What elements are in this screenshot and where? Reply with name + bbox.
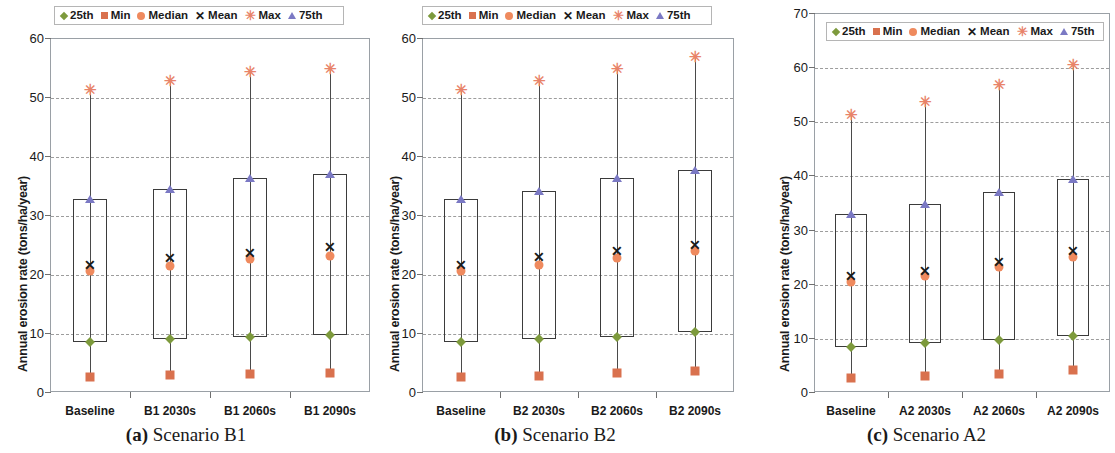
box <box>835 214 868 346</box>
legend-x-icon: ✕ <box>563 10 573 22</box>
gridline <box>423 157 733 158</box>
box <box>313 174 347 336</box>
y-tick-label: 70 <box>772 6 808 21</box>
panel-title: Scenario A2 <box>893 424 986 445</box>
y-tick-mark <box>809 121 815 122</box>
panel-letter: (a) <box>126 424 148 445</box>
y-tick-mark <box>809 338 815 339</box>
x-tick-mark <box>888 392 889 398</box>
y-tick-label: 60 <box>8 31 44 46</box>
x-tick-label: B2 2090s <box>669 404 721 418</box>
box <box>522 191 556 340</box>
legend-circle-icon <box>909 28 917 36</box>
legend-item-p25: 25th <box>833 26 866 38</box>
legend-diamond-icon <box>832 27 840 35</box>
box <box>1057 179 1090 336</box>
panel-b: Annual erosion rate (tons/ha/year)010203… <box>372 0 738 453</box>
y-tick-mark <box>809 392 815 393</box>
y-tick-label: 20 <box>380 267 416 282</box>
legend-label: Median <box>148 10 188 22</box>
box <box>909 204 942 344</box>
legend-square-icon <box>469 12 476 19</box>
legend-label: Median <box>516 10 556 22</box>
y-tick-label: 50 <box>8 90 44 105</box>
legend-asterisk-icon: ✳ <box>1017 25 1028 38</box>
x-tick-label: Baseline <box>436 404 485 418</box>
box <box>678 170 712 333</box>
y-tick-mark <box>45 274 51 275</box>
x-tick-mark <box>290 392 291 398</box>
box <box>600 178 634 336</box>
legend-label: 25th <box>70 10 94 22</box>
x-tick-label: A2 2030s <box>899 404 951 418</box>
box <box>153 189 187 339</box>
panel-letter: (c) <box>867 424 888 445</box>
y-tick-label: 0 <box>380 385 416 400</box>
y-tick-label: 10 <box>772 330 808 345</box>
y-tick-mark <box>417 97 423 98</box>
gridline <box>815 122 1109 123</box>
panel-a: Annual erosion rate (tons/ha/year)010203… <box>0 0 372 453</box>
legend-label: Min <box>111 10 131 22</box>
x-tick-mark <box>962 392 963 398</box>
y-tick-mark <box>809 67 815 68</box>
legend-item-median: Median <box>505 10 556 22</box>
y-tick-mark <box>417 333 423 334</box>
y-tick-mark <box>417 215 423 216</box>
x-tick-label: Baseline <box>65 404 114 418</box>
legend-label: Max <box>259 10 281 22</box>
y-tick-mark <box>45 97 51 98</box>
y-tick-label: 10 <box>380 326 416 341</box>
chart-legend: 25thMinMedian✕Mean✳Max75th <box>422 6 712 25</box>
legend-item-min: Min <box>101 10 131 22</box>
legend-x-icon: ✕ <box>967 26 977 38</box>
legend-item-p25: 25th <box>429 10 462 22</box>
legend-item-mean: ✕Mean <box>967 26 1009 38</box>
legend-item-median: Median <box>137 10 188 22</box>
x-tick-label: A2 2060s <box>973 404 1025 418</box>
panel-title: Scenario B1 <box>153 424 246 445</box>
y-tick-label: 20 <box>772 276 808 291</box>
y-tick-mark <box>417 392 423 393</box>
legend-item-p75: 75th <box>656 10 691 22</box>
x-tick-mark <box>1036 392 1037 398</box>
legend-label: 25th <box>438 10 462 22</box>
legend-label: Max <box>627 10 649 22</box>
legend-label: 75th <box>667 10 691 22</box>
gridline <box>51 98 369 99</box>
gridline <box>815 68 1109 69</box>
legend-diamond-icon <box>428 11 436 19</box>
panel-caption: (c) Scenario A2 <box>738 424 1115 446</box>
x-tick-label: B1 2030s <box>144 404 196 418</box>
legend-label: Min <box>883 26 903 38</box>
chart-legend: 25thMinMedian✕Mean✳Max75th <box>826 22 1104 41</box>
y-tick-mark <box>45 38 51 39</box>
legend-circle-icon <box>137 12 145 20</box>
legend-item-mean: ✕Mean <box>195 10 237 22</box>
panel-caption: (a) Scenario B1 <box>0 424 372 446</box>
y-tick-label: 20 <box>8 267 44 282</box>
gridline <box>815 176 1109 177</box>
x-tick-label: B2 2030s <box>513 404 565 418</box>
panel-caption: (b) Scenario B2 <box>372 424 738 446</box>
y-tick-label: 50 <box>380 90 416 105</box>
legend-asterisk-icon: ✳ <box>245 9 256 22</box>
y-tick-label: 10 <box>8 326 44 341</box>
y-tick-label: 60 <box>772 60 808 75</box>
y-tick-label: 50 <box>772 114 808 129</box>
legend-item-p75: 75th <box>1060 26 1095 38</box>
y-tick-label: 30 <box>772 222 808 237</box>
y-tick-mark <box>45 156 51 157</box>
y-tick-label: 30 <box>8 208 44 223</box>
y-tick-mark <box>45 215 51 216</box>
legend-circle-icon <box>505 12 513 20</box>
legend-item-min: Min <box>873 26 903 38</box>
boxplot-figure: Annual erosion rate (tons/ha/year)010203… <box>0 0 1115 453</box>
x-tick-label: Baseline <box>826 404 875 418</box>
y-tick-label: 0 <box>772 385 808 400</box>
legend-label: Median <box>920 26 960 38</box>
gridline <box>423 98 733 99</box>
y-tick-mark <box>417 274 423 275</box>
y-tick-label: 40 <box>380 149 416 164</box>
legend-item-p75: 75th <box>288 10 323 22</box>
